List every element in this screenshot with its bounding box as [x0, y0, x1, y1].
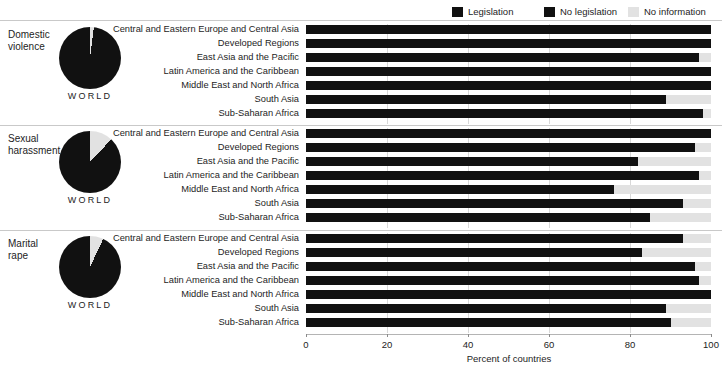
panel-divider: [0, 230, 722, 231]
bar-segment-legislation: [306, 67, 711, 76]
bar-row: South Asia: [0, 303, 722, 317]
bar-segment-no-information: [666, 95, 711, 104]
bar-segment-legislation: [306, 157, 638, 166]
bar-row-label: Sub-Saharan Africa: [34, 212, 299, 223]
x-axis-title: Percent of countries: [306, 353, 712, 364]
bar-rows: Central and Eastern Europe and Central A…: [0, 128, 722, 226]
bar-row: Sub-Saharan Africa: [0, 212, 722, 226]
bar-row: South Asia: [0, 94, 722, 108]
bar-row: East Asia and the Pacific: [0, 261, 722, 275]
legend-label-legislation: Legislation: [468, 7, 513, 17]
bar-track: [306, 129, 711, 138]
x-axis-tick-label: 0: [291, 339, 321, 350]
bar-row-label: Latin America and the Caribbean: [34, 275, 299, 286]
bar-segment-legislation: [306, 248, 642, 257]
panel-sexual-harassment: Sexual harassment WORLD Central and East…: [0, 125, 722, 230]
bar-row: South Asia: [0, 198, 722, 212]
x-axis-tick: [306, 334, 307, 337]
bar-segment-no-information: [695, 143, 711, 152]
bar-row: Latin America and the Caribbean: [0, 170, 722, 184]
x-axis-tick: [468, 334, 469, 337]
bar-track: [306, 234, 711, 243]
bar-segment-legislation: [306, 95, 666, 104]
bar-track: [306, 81, 711, 90]
bar-segment-no-information: [671, 318, 712, 327]
bar-row: Central and Eastern Europe and Central A…: [0, 24, 722, 38]
bar-segment-legislation: [306, 25, 711, 34]
x-axis-tick-label: 60: [534, 339, 564, 350]
bar-row: Developed Regions: [0, 142, 722, 156]
bar-segment-no-information: [699, 276, 711, 285]
bar-segment-legislation: [306, 39, 711, 48]
panel-divider: [0, 125, 722, 126]
bar-row: East Asia and the Pacific: [0, 52, 722, 66]
bar-row-label: South Asia: [34, 198, 299, 209]
bar-segment-no-information: [703, 109, 711, 118]
bar-segment-legislation: [306, 234, 683, 243]
bar-track: [306, 276, 711, 285]
bar-track: [306, 262, 711, 271]
bar-segment-no-information: [695, 262, 711, 271]
x-axis-tick: [711, 334, 712, 337]
bar-row-label: South Asia: [34, 94, 299, 105]
legend-label-no-legislation: No legislation: [560, 7, 617, 17]
bar-row-label: Developed Regions: [34, 142, 299, 153]
bar-row-label: Developed Regions: [34, 247, 299, 258]
x-axis-tick-label: 40: [453, 339, 483, 350]
bar-segment-no-information: [614, 185, 711, 194]
bar-segment-legislation: [306, 318, 671, 327]
bar-segment-legislation: [306, 129, 711, 138]
bar-row: Sub-Saharan Africa: [0, 317, 722, 331]
bar-row-label: Middle East and North Africa: [34, 80, 299, 91]
x-axis-line: [306, 334, 712, 335]
bar-segment-legislation: [306, 304, 666, 313]
bar-segment-no-information: [642, 248, 711, 257]
bar-track: [306, 67, 711, 76]
bar-segment-no-information: [666, 304, 711, 313]
bar-row-label: East Asia and the Pacific: [34, 261, 299, 272]
legend-swatch-legislation: [452, 7, 463, 17]
bar-row-label: Middle East and North Africa: [34, 184, 299, 195]
bar-track: [306, 25, 711, 34]
bar-row: Latin America and the Caribbean: [0, 275, 722, 289]
bar-row-label: Latin America and the Caribbean: [34, 170, 299, 181]
bar-segment-legislation: [306, 199, 683, 208]
x-axis-tick-label: 20: [372, 339, 402, 350]
panel-domestic-violence: Domestic violence WORLD Central and East…: [0, 21, 722, 125]
bar-track: [306, 248, 711, 257]
bar-track: [306, 304, 711, 313]
bar-segment-no-information: [638, 157, 711, 166]
bar-row-label: Central and Eastern Europe and Central A…: [34, 233, 299, 244]
bar-track: [306, 290, 711, 299]
bar-segment-legislation: [306, 262, 695, 271]
legend-item-no-legislation: No legislation: [544, 5, 617, 19]
bar-segment-legislation: [306, 290, 711, 299]
bar-track: [306, 213, 711, 222]
bar-row: Sub-Saharan Africa: [0, 108, 722, 122]
bar-track: [306, 143, 711, 152]
bar-segment-legislation: [306, 81, 711, 90]
bar-segment-no-information: [683, 234, 711, 243]
bar-track: [306, 109, 711, 118]
bar-row: Middle East and North Africa: [0, 289, 722, 303]
bar-segment-legislation: [306, 171, 699, 180]
bar-segment-legislation: [306, 185, 614, 194]
bar-track: [306, 318, 711, 327]
bar-row-label: Sub-Saharan Africa: [34, 317, 299, 328]
bar-segment-no-information: [699, 53, 711, 62]
legend-swatch-no-legislation: [544, 7, 555, 17]
bar-track: [306, 157, 711, 166]
x-axis-tick: [630, 334, 631, 337]
bar-row: Middle East and North Africa: [0, 184, 722, 198]
bar-track: [306, 199, 711, 208]
bar-row-label: Central and Eastern Europe and Central A…: [34, 128, 299, 139]
bar-segment-legislation: [306, 109, 703, 118]
bar-segment-legislation: [306, 276, 699, 285]
bar-track: [306, 95, 711, 104]
bar-rows: Central and Eastern Europe and Central A…: [0, 24, 722, 122]
bar-rows: Central and Eastern Europe and Central A…: [0, 233, 722, 331]
bar-row: Developed Regions: [0, 247, 722, 261]
bar-track: [306, 185, 711, 194]
bar-segment-legislation: [306, 213, 650, 222]
bar-segment-legislation: [306, 143, 695, 152]
